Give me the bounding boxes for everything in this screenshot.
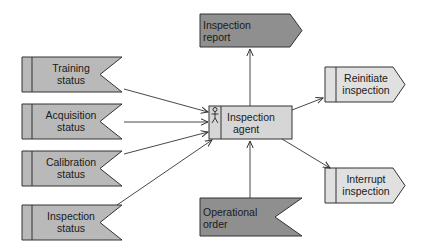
label-line: Interrupt bbox=[338, 173, 394, 185]
label-line: Inspection bbox=[36, 210, 106, 222]
label-line: order bbox=[203, 218, 278, 230]
reinitiate-inspection-label: Reinitiate inspection bbox=[338, 72, 394, 96]
label-line: agent bbox=[227, 123, 291, 135]
label-line: status bbox=[38, 74, 104, 86]
label-line: status bbox=[36, 168, 106, 180]
label-line: Training bbox=[38, 62, 104, 74]
inspection-report-label: Inspection report bbox=[203, 19, 283, 43]
input-calibration-status-label: Calibration status bbox=[36, 156, 106, 180]
label-line: Acquisition bbox=[36, 109, 106, 121]
inspection-agent-label: Inspection agent bbox=[227, 111, 291, 135]
label-line: status bbox=[36, 222, 106, 234]
input-training-status-label: Training status bbox=[38, 62, 104, 86]
input-inspection-status-label: Inspection status bbox=[36, 210, 106, 234]
operational-order-label: Operational order bbox=[203, 206, 278, 230]
label-line: report bbox=[203, 31, 283, 43]
label-line: Reinitiate bbox=[338, 72, 394, 84]
input-acquisition-status-label: Acquisition status bbox=[36, 109, 106, 133]
interrupt-inspection-label: Interrupt inspection bbox=[338, 173, 394, 197]
label-line: Operational bbox=[203, 206, 278, 218]
label-line: Inspection bbox=[203, 19, 283, 31]
label-line: Inspection bbox=[227, 111, 291, 123]
label-line: status bbox=[36, 121, 106, 133]
label-line: inspection bbox=[338, 185, 394, 197]
label-line: Calibration bbox=[36, 156, 106, 168]
label-line: inspection bbox=[338, 84, 394, 96]
